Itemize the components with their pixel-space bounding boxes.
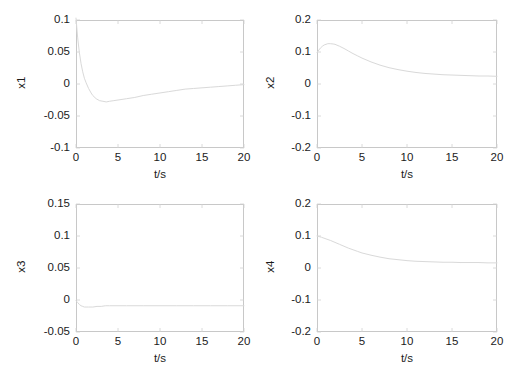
ytick-label-x1: 0.1: [26, 14, 70, 26]
x-axis-label-x3: t/s: [76, 353, 244, 365]
xtick-label-x2: 10: [392, 152, 422, 164]
tick-marks-x3: [76, 204, 244, 332]
ytick-label-x4: 0.1: [267, 230, 311, 242]
xtick-label-x3: 0: [61, 336, 91, 348]
xtick-label-x4: 20: [482, 336, 512, 348]
data-line-x1: [76, 18, 244, 102]
x-axis-label-x1: t/s: [76, 169, 244, 181]
xtick-label-x2: 15: [437, 152, 467, 164]
ytick-label-x2: 0.2: [267, 14, 311, 26]
data-line-x4: [317, 236, 497, 263]
ytick-label-x2: 0.1: [267, 46, 311, 58]
y-axis-label-x4: x4: [265, 257, 277, 277]
figure-canvas: -0.1-0.0500.050.105101520t/sx1-0.2-0.100…: [0, 0, 523, 370]
xtick-label-x4: 0: [302, 336, 332, 348]
ytick-label-x2: -0.1: [267, 110, 311, 122]
xtick-label-x1: 15: [187, 152, 217, 164]
xtick-label-x3: 15: [187, 336, 217, 348]
plot-area-x4: [317, 204, 497, 332]
subplot-x1: -0.1-0.0500.050.105101520t/sx1: [76, 20, 244, 148]
plot-area-x1: [76, 20, 244, 148]
data-line-x3: [76, 301, 244, 307]
data-line-x2: [317, 44, 497, 77]
ytick-label-x3: 0.15: [26, 198, 70, 210]
xtick-label-x2: 5: [347, 152, 377, 164]
xtick-label-x1: 20: [229, 152, 259, 164]
ytick-label-x1: 0.05: [26, 46, 70, 58]
xtick-label-x3: 20: [229, 336, 259, 348]
plot-area-x3: [76, 204, 244, 332]
tick-marks-x4: [317, 204, 497, 332]
subplot-x2: -0.2-0.100.10.205101520t/sx2: [317, 20, 497, 148]
ytick-label-x4: 0.2: [267, 198, 311, 210]
x-axis-label-x4: t/s: [317, 353, 497, 365]
tick-marks-x2: [317, 20, 497, 148]
xtick-label-x4: 10: [392, 336, 422, 348]
ytick-label-x4: -0.1: [267, 294, 311, 306]
subplot-x4: -0.2-0.100.10.205101520t/sx4: [317, 204, 497, 332]
ytick-label-x1: -0.05: [26, 110, 70, 122]
ytick-label-x3: 0.05: [26, 262, 70, 274]
x-axis-label-x2: t/s: [317, 169, 497, 181]
xtick-label-x1: 5: [103, 152, 133, 164]
tick-marks-x1: [76, 20, 244, 148]
xtick-label-x2: 0: [302, 152, 332, 164]
xtick-label-x3: 10: [145, 336, 175, 348]
xtick-label-x4: 5: [347, 336, 377, 348]
xtick-label-x3: 5: [103, 336, 133, 348]
y-axis-label-x2: x2: [265, 73, 277, 93]
plot-area-x2: [317, 20, 497, 148]
y-axis-label-x3: x3: [16, 257, 28, 277]
xtick-label-x1: 10: [145, 152, 175, 164]
subplot-x3: -0.0500.050.10.1505101520t/sx3: [76, 204, 244, 332]
ytick-label-x3: 0: [26, 294, 70, 306]
ytick-label-x3: 0.1: [26, 230, 70, 242]
y-axis-label-x1: x1: [16, 73, 28, 93]
xtick-label-x2: 20: [482, 152, 512, 164]
ytick-label-x1: 0: [26, 78, 70, 90]
xtick-label-x1: 0: [61, 152, 91, 164]
xtick-label-x4: 15: [437, 336, 467, 348]
